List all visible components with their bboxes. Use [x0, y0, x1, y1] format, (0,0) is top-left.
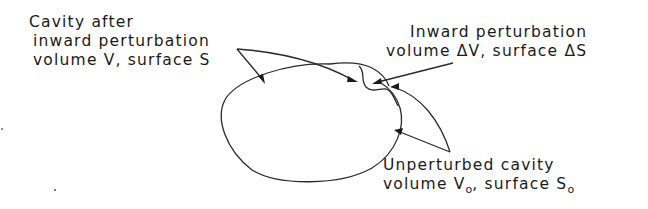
label-line: Inward perturbation [386, 23, 587, 42]
leader-inward-perturbation [372, 63, 453, 84]
surface-subscript: o [567, 183, 574, 196]
volume-symbol: volume V [383, 175, 466, 193]
perturbation-dent [359, 66, 398, 106]
arrowhead-icon [394, 128, 403, 135]
scan-speck [54, 189, 56, 191]
label-line: inward perturbation [29, 32, 211, 51]
label-line: volume Vo, surface So [383, 175, 574, 199]
label-line: Cavity after [29, 13, 211, 32]
cavity-perturbation-figure: Cavity after inward perturbation volume … [0, 0, 648, 209]
cavity-ellipse [221, 63, 401, 182]
leader-unperturbed [390, 83, 450, 152]
label-line: volume V, surface S [29, 51, 211, 70]
leader-cavity-after [237, 49, 358, 84]
label-unperturbed: Unperturbed cavity volume Vo, surface So [383, 156, 574, 199]
label-cavity-after: Cavity after inward perturbation volume … [29, 13, 211, 70]
surface-text: , surface S [472, 175, 567, 193]
arrowhead-icon [390, 83, 399, 90]
scan-speck [1, 128, 3, 130]
label-inward-perturbation: Inward perturbation volume ΔV, surface Δ… [386, 23, 587, 61]
arrowhead-icon [372, 78, 382, 84]
arrowhead-icon [347, 76, 358, 82]
label-line: volume ΔV, surface ΔS [386, 42, 587, 61]
label-line: Unperturbed cavity [383, 156, 574, 175]
